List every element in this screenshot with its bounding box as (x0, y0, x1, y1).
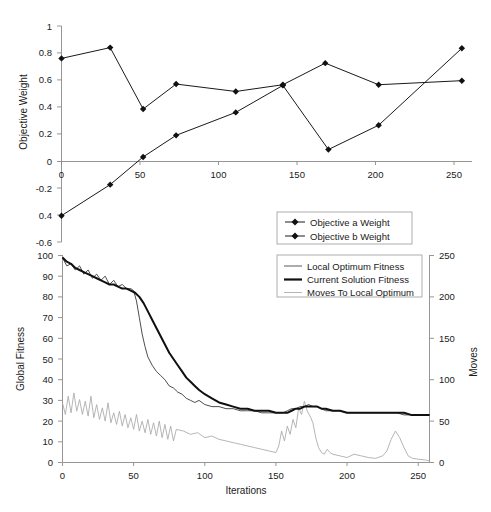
bottom-chart-y2tick-100: 100 (439, 374, 455, 385)
bottom-legend-label-moves: Moves To Local Optimum (307, 287, 414, 298)
bottom-chart-ytick-60: 60 (42, 333, 53, 344)
top-chart-ytick-0: 0 (47, 156, 52, 167)
top-chart-ytick-0-8: 0.8 (39, 47, 52, 58)
top-chart-ytick-0-2: 0.2 (39, 128, 52, 139)
top-legend-label-a: Objective a Weight (310, 217, 390, 228)
top-chart-ytick-neg-0-6: -0.6 (36, 237, 52, 248)
top-chart-ytick-neg-0-2: -0.2 (36, 183, 52, 194)
bottom-chart-ytick-100: 100 (37, 250, 53, 261)
bottom-chart-xtick-200: 200 (339, 470, 355, 481)
top-chart-xtick-200: 200 (368, 169, 384, 180)
top-chart-ytick-neg-0-4: 0.4 (39, 210, 52, 221)
bottom-chart-y-axis-title: Global Fitness (15, 327, 26, 391)
bottom-chart-xtick-250: 250 (410, 470, 426, 481)
bottom-chart-ytick-40: 40 (42, 374, 53, 385)
bottom-legend-label-current: Current Solution Fitness (307, 274, 409, 285)
bottom-chart-y2tick-50: 50 (439, 416, 450, 427)
bottom-chart-legend[interactable]: Local Optimum Fitness Current Solution F… (277, 255, 422, 298)
top-legend-label-b: Objective b Weight (310, 231, 390, 242)
bottom-chart-ytick-90: 90 (42, 271, 53, 282)
bottom-chart-xtick-100: 100 (197, 470, 213, 481)
top-chart-xtick-0: 0 (59, 169, 64, 180)
bottom-chart-ytick-50: 50 (42, 354, 53, 365)
top-chart-xtick-50: 50 (135, 169, 146, 180)
bottom-chart-x-axis-title: Iterations (225, 485, 266, 496)
top-chart-y-axis-title: Objective Weight (18, 74, 29, 150)
bottom-chart-y2tick-0: 0 (439, 457, 444, 468)
bottom-chart-xtick-50: 50 (128, 470, 139, 481)
top-chart-xtick-100: 100 (211, 169, 227, 180)
top-chart-ytick-1: 1 (47, 21, 52, 32)
bottom-chart-ytick-70: 70 (42, 312, 53, 323)
top-chart-xtick-150: 150 (289, 169, 305, 180)
bottom-chart-xtick-150: 150 (268, 470, 284, 481)
bottom-chart-y2tick-150: 150 (439, 333, 455, 344)
bottom-legend-label-local: Local Optimum Fitness (307, 261, 404, 272)
chart-svg: 1 0.8 0.6 0.4 0.2 0 -0.2 0.4 -0.6 Object… (0, 0, 491, 512)
top-chart-legend[interactable]: Objective a Weight Objective b Weight (277, 212, 412, 244)
top-chart-xtick-250: 250 (446, 169, 462, 180)
bottom-chart-ytick-80: 80 (42, 291, 53, 302)
bottom-chart-ytick-0: 0 (48, 457, 53, 468)
bottom-chart-ytick-20: 20 (42, 416, 53, 427)
bottom-chart-y2-axis-title: Moves (468, 347, 479, 376)
bottom-chart-ytick-30: 30 (42, 395, 53, 406)
top-chart-ytick-0-6: 0.6 (39, 74, 52, 85)
bottom-chart-ytick-10: 10 (42, 436, 53, 447)
top-chart-ytick-0-4: 0.4 (39, 101, 52, 112)
bottom-chart-y2tick-250: 250 (439, 250, 455, 261)
bottom-chart-xtick-0: 0 (60, 470, 65, 481)
bottom-chart-y2tick-200: 200 (439, 291, 455, 302)
figure-container: 1 0.8 0.6 0.4 0.2 0 -0.2 0.4 -0.6 Object… (0, 0, 491, 512)
